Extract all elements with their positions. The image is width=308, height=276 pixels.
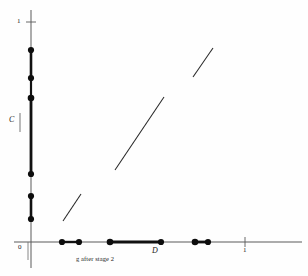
- x-axis-point: [158, 239, 164, 245]
- y-tick-label-one: 1: [17, 18, 21, 25]
- x-axis-point: [107, 239, 114, 246]
- tick-marks-group: [20, 22, 245, 260]
- y-axis-point: [28, 75, 34, 81]
- diagonal-segment-upper-right: [193, 48, 213, 77]
- x-axis-point: [59, 239, 65, 245]
- x-axis-point: [192, 239, 199, 246]
- axes-group: [14, 10, 302, 268]
- figure-container: C D 1 1 0 g after stage 2: [0, 0, 308, 276]
- y-axis-point: [28, 171, 34, 177]
- x-axis-point: [205, 239, 211, 245]
- diagonal-segments-group: [63, 48, 213, 221]
- y-axis-point: [28, 216, 34, 222]
- origin-label: 0: [18, 244, 22, 251]
- plot-canvas: [0, 0, 308, 276]
- figure-caption: g after stage 2: [76, 256, 114, 263]
- y-axis-point: [28, 47, 34, 53]
- y-axis-label: C: [9, 116, 14, 124]
- x-axis-point: [76, 239, 82, 245]
- x-axis-label: D: [152, 247, 158, 255]
- y-axis-point: [28, 193, 34, 199]
- diagonal-segment-lower-left: [63, 194, 81, 221]
- x-tick-label-one: 1: [243, 247, 247, 254]
- y-axis-point: [28, 95, 35, 102]
- diagonal-segment-middle: [115, 97, 164, 170]
